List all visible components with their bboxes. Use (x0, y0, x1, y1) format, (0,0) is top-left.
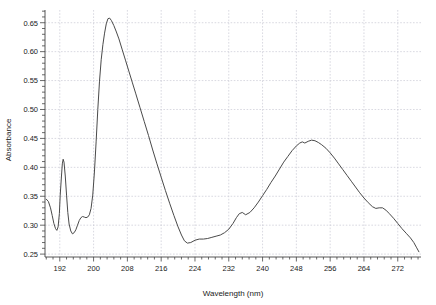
y-tick-label: 0.35 (23, 192, 38, 201)
x-tick-label: 216 (155, 264, 168, 273)
chart-canvas: 192200208216224232240248256264272 0.250.… (0, 0, 436, 305)
x-tick-label: 248 (290, 264, 303, 273)
y-tick-label: 0.40 (23, 163, 38, 172)
x-axis-title: Wavelength (nm) (203, 289, 264, 298)
grid-lines (45, 10, 421, 257)
absorbance-spectrum-chart: 192200208216224232240248256264272 0.250.… (0, 0, 436, 305)
y-tick-label: 0.45 (23, 134, 38, 143)
spectrum-line (46, 18, 419, 252)
x-tick-label: 200 (87, 264, 100, 273)
x-tick-label: 272 (392, 264, 405, 273)
y-tick-label: 0.30 (23, 221, 38, 230)
x-tick-label: 224 (189, 264, 202, 273)
data-series-spectrum (46, 18, 419, 252)
x-tick-label: 208 (121, 264, 134, 273)
y-tick-label: 0.65 (23, 19, 38, 28)
x-tick-label: 256 (324, 264, 337, 273)
y-tick-label: 0.25 (23, 250, 38, 259)
y-axis-ticks (40, 11, 45, 254)
x-axis-tick-labels: 192200208216224232240248256264272 (54, 264, 404, 273)
y-tick-label: 0.55 (23, 76, 38, 85)
plot-frame (45, 10, 421, 257)
x-axis-ticks (46, 257, 418, 262)
y-tick-label: 0.60 (23, 47, 38, 56)
y-axis-tick-labels: 0.250.300.350.400.450.500.550.600.65 (23, 19, 38, 259)
x-tick-label: 264 (358, 264, 371, 273)
y-axis-title: Absorbance (4, 118, 13, 161)
y-tick-label: 0.50 (23, 105, 38, 114)
x-tick-label: 240 (256, 264, 269, 273)
x-tick-label: 192 (54, 264, 67, 273)
x-tick-label: 232 (223, 264, 236, 273)
